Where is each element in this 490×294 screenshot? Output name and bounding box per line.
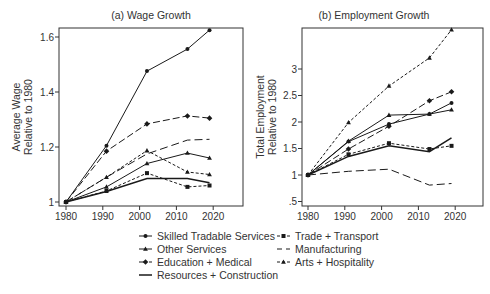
x-tick-label: 2000 [128, 211, 151, 222]
series-line [308, 169, 452, 185]
x-tick-label: 1990 [334, 211, 357, 222]
x-tick-label: 2010 [165, 211, 188, 222]
skilled-tradable-services-marker [185, 47, 189, 51]
figure: (a) Wage GrowthAverage WageRelative to 1… [0, 0, 490, 294]
education-medical-marker [144, 121, 150, 127]
y-tick-label: 3 [291, 64, 297, 75]
legend-item-manufacturing: Manufacturing [277, 243, 362, 255]
series-line [308, 92, 452, 175]
education-medical-marker [427, 98, 433, 104]
panel-employment-growth: (b) Employment GrowthTotal EmploymentRel… [254, 9, 483, 222]
y-tick-label: 1 [48, 197, 54, 208]
svg-text:Average Wage: Average Wage [10, 82, 22, 151]
trade-transport-marker [427, 147, 431, 151]
legend-label: Skilled Tradable Services [157, 230, 275, 242]
trade-transport-marker [104, 189, 108, 193]
education-medical-marker [185, 113, 191, 119]
skilled-tradable-services-marker [450, 101, 454, 105]
y-tick-label: 1.4 [40, 87, 54, 98]
series-education-medical [63, 113, 212, 205]
y-tick-label: .5 [289, 196, 298, 207]
legend-marker [143, 259, 149, 265]
chart-title: (b) Employment Growth [319, 9, 430, 21]
x-tick-label: 1980 [297, 211, 320, 222]
x-tick-label: 2010 [407, 211, 430, 222]
series-resources-construction [66, 179, 210, 202]
plot-frame [302, 28, 483, 206]
y-axis-label: Total EmploymentRelative to 1980 [254, 75, 278, 159]
chart-title: (a) Wage Growth [111, 9, 191, 21]
series-arts-hospitality [64, 148, 212, 204]
svg-text:Total Employment: Total Employment [254, 75, 266, 159]
legend-item-education-medical: Education + Medical [139, 256, 252, 268]
skilled-tradable-services-marker [208, 28, 212, 32]
series-line [66, 179, 210, 202]
legend-label: Manufacturing [295, 243, 362, 255]
arts-hospitality-marker [104, 175, 109, 179]
legend-item-trade-transport: Trade + Transport [277, 230, 378, 242]
svg-text:Relative to 1980: Relative to 1980 [22, 79, 34, 155]
x-tick-label: 1980 [55, 211, 78, 222]
trade-transport-marker [346, 152, 350, 156]
legend-label: Arts + Hospitality [295, 256, 375, 268]
legend-marker [282, 234, 286, 238]
legend-label: Resources + Construction [157, 269, 278, 281]
legend-item-resources-construction: Resources + Construction [139, 269, 278, 281]
y-tick-label: 2 [291, 117, 297, 128]
x-tick-label: 1990 [92, 211, 115, 222]
y-tick-label: 1 [291, 170, 297, 181]
panel-wage-growth: (a) Wage GrowthAverage WageRelative to 1… [10, 9, 243, 222]
other-services-marker [449, 107, 454, 111]
trade-transport-marker [185, 185, 189, 189]
y-tick-label: 1.6 [40, 32, 54, 43]
svg-text:Relative to 1980: Relative to 1980 [266, 79, 278, 155]
x-tick-label: 2020 [444, 211, 467, 222]
arts-hospitality-marker [145, 148, 150, 152]
arts-hospitality-marker [387, 83, 392, 87]
legend-marker [281, 259, 286, 263]
trade-transport-marker [208, 184, 212, 188]
series-trade-transport [306, 141, 454, 177]
series-arts-hospitality [306, 27, 454, 177]
legend-marker [144, 234, 148, 238]
education-medical-marker [207, 115, 213, 121]
legend-label: Other Services [157, 243, 226, 255]
y-tick-label: 1.5 [283, 143, 297, 154]
x-tick-label: 2000 [370, 211, 393, 222]
y-axis-label: Average WageRelative to 1980 [10, 79, 34, 155]
education-medical-marker [346, 146, 352, 152]
legend-item-arts-hospitality: Arts + Hospitality [277, 256, 375, 268]
series-manufacturing [308, 169, 452, 185]
arts-hospitality-marker [346, 120, 351, 124]
legend: Skilled Tradable ServicesTrade + Transpo… [139, 230, 378, 281]
trade-transport-marker [387, 141, 391, 145]
skilled-tradable-services-marker [145, 69, 149, 73]
y-tick-label: 2.5 [283, 90, 297, 101]
y-tick-label: 1.2 [40, 142, 54, 153]
trade-transport-marker [450, 144, 454, 148]
legend-item-other-services: Other Services [139, 243, 226, 255]
legend-item-skilled-tradable-services: Skilled Tradable Services [139, 230, 275, 242]
other-services-marker [185, 150, 190, 154]
legend-label: Education + Medical [157, 256, 252, 268]
x-tick-label: 2020 [202, 211, 225, 222]
trade-transport-marker [145, 171, 149, 175]
skilled-tradable-services-marker [104, 144, 108, 148]
education-medical-marker [449, 89, 455, 95]
legend-label: Trade + Transport [295, 230, 378, 242]
